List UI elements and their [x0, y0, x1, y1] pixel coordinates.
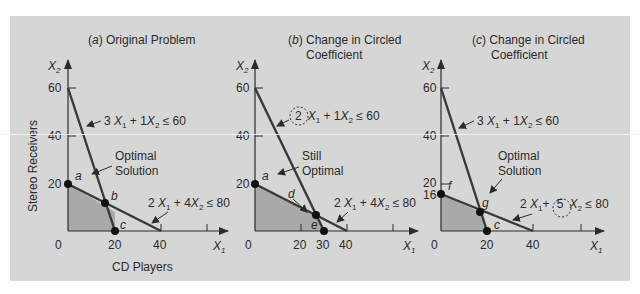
panel-a: (a) Original Problem 60 40 20 0 20 40 X2…	[47, 33, 230, 274]
panel-c-title-line2: Coefficient	[491, 48, 548, 62]
x-tick-0: 0	[55, 238, 62, 252]
panel-c-title: (c) Change in Circled	[472, 33, 585, 47]
svg-text:30: 30	[316, 238, 330, 252]
svg-text:40: 40	[526, 238, 540, 252]
y-axis-label-b: X2	[235, 59, 249, 75]
panel-b-title-line2: Coefficient	[306, 48, 363, 62]
constraint-2-label-a: 2 X1 + 4X2 ≤ 80	[148, 196, 230, 212]
annotation-c-line2: Solution	[498, 164, 541, 178]
point-b	[101, 199, 109, 207]
svg-text:e: e	[311, 218, 318, 232]
svg-text:a: a	[262, 169, 269, 183]
annotation-b-line2: Optimal	[302, 164, 343, 178]
x-axis-label-b: X1	[402, 239, 415, 255]
svg-text:g: g	[482, 196, 489, 210]
svg-text:c: c	[494, 218, 500, 232]
svg-text:20: 20	[236, 177, 250, 191]
y-axis-label-c: X2	[421, 59, 435, 75]
scan-artifact-line	[0, 134, 640, 135]
svg-text:c: c	[120, 218, 126, 232]
point-a	[64, 180, 72, 188]
point-e	[320, 227, 328, 235]
svg-text:0: 0	[431, 238, 438, 252]
y-tick-40: 40	[48, 129, 62, 143]
annotation-c-line1: Optimal	[498, 149, 539, 163]
svg-text:20: 20	[480, 238, 494, 252]
svg-text:60: 60	[423, 81, 437, 95]
panel-b: (b) Change in Circled Coefficient 60 40 …	[235, 33, 418, 255]
annotation-a-line1: Optimal	[115, 149, 156, 163]
svg-text:20: 20	[293, 238, 307, 252]
x-axis-label-a: X1	[212, 239, 225, 255]
x-axis-title: CD Players	[112, 260, 173, 274]
y-tick-60: 60	[48, 81, 62, 95]
panel-b-title: (b) Change in Circled	[288, 33, 401, 47]
point-f	[437, 190, 445, 198]
svg-text:40: 40	[423, 129, 437, 143]
x-axis-label-c: X1	[589, 239, 602, 255]
point-c-c	[483, 227, 491, 235]
x-tick-40: 40	[153, 238, 167, 252]
constraint-1-label-c: 3 X1 + 1X2 ≤ 60	[477, 114, 559, 130]
svg-text:60: 60	[236, 81, 250, 95]
constraint-2-label-b: 2 X1 + 4X2 ≤ 80	[334, 196, 416, 212]
svg-text:a: a	[75, 169, 82, 183]
point-a-b	[251, 180, 259, 188]
panel-a-title: (a) Original Problem	[88, 33, 195, 47]
annotation-a-line2: Solution	[115, 164, 158, 178]
svg-text:d: d	[288, 187, 295, 201]
point-c	[111, 227, 119, 235]
svg-text:f: f	[448, 179, 453, 193]
svg-text:b: b	[111, 189, 118, 203]
svg-text:0: 0	[245, 238, 252, 252]
constraint-1-label-b: 2X1 + 1X2 ≤ 60	[295, 109, 380, 125]
constraint-1-label-a: 3 X1 + 1X2 ≤ 60	[104, 114, 186, 130]
x-tick-20: 20	[108, 238, 122, 252]
sensitivity-analysis-figure: Stereo Receivers (a) Original Problem 60…	[0, 0, 640, 294]
y-tick-20: 20	[48, 177, 62, 191]
svg-text:40: 40	[236, 129, 250, 143]
panel-c: (c) Change in Circled Coefficient 60 40 …	[421, 33, 609, 255]
svg-text:16: 16	[423, 188, 437, 202]
y-axis-label-a: X2	[47, 59, 61, 75]
svg-text:40: 40	[339, 238, 353, 252]
annotation-b-line1: Still	[302, 149, 321, 163]
